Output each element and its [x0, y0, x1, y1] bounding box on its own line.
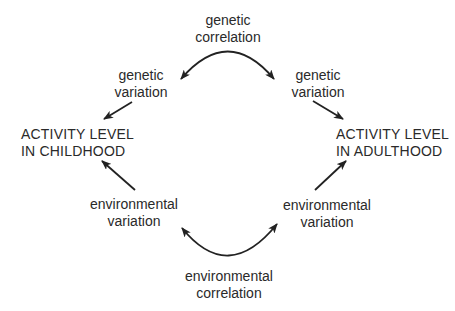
environmental-correlation-label: environmental correlation — [185, 268, 273, 302]
genetic-correlation-line2: correlation — [195, 29, 260, 46]
genetic-variation-right-arrow — [313, 101, 343, 119]
node-childhood-line2: IN CHILDHOOD — [21, 143, 134, 160]
environmental-variation-left-label: environmental variation — [90, 196, 178, 230]
genetic-variation-left-label: genetic variation — [115, 67, 168, 101]
environmental-variation-right-line2: variation — [283, 214, 371, 231]
genetic-variation-right-line2: variation — [292, 84, 345, 101]
genetic-correlation-label: genetic correlation — [195, 12, 260, 46]
environmental-variation-left-arrow — [102, 161, 135, 190]
node-activity-childhood: ACTIVITY LEVEL IN CHILDHOOD — [21, 126, 134, 160]
node-adulthood-line1: ACTIVITY LEVEL — [336, 126, 449, 143]
node-childhood-line1: ACTIVITY LEVEL — [21, 126, 134, 143]
environmental-correlation-arc — [182, 224, 277, 256]
genetic-variation-left-line1: genetic — [115, 67, 168, 84]
environmental-variation-right-line1: environmental — [283, 197, 371, 214]
node-adulthood-line2: IN ADULTHOOD — [336, 143, 449, 160]
genetic-variation-left-line2: variation — [115, 84, 168, 101]
genetic-variation-right-line1: genetic — [292, 67, 345, 84]
node-activity-adulthood: ACTIVITY LEVEL IN ADULTHOOD — [336, 126, 449, 160]
genetic-variation-right-label: genetic variation — [292, 67, 345, 101]
environmental-correlation-line2: correlation — [185, 285, 273, 302]
genetic-variation-left-arrow — [104, 102, 132, 119]
environmental-variation-left-line1: environmental — [90, 196, 178, 213]
genetic-correlation-line1: genetic — [195, 12, 260, 29]
environmental-variation-right-label: environmental variation — [283, 197, 371, 231]
environmental-variation-right-arrow — [315, 161, 346, 190]
genetic-correlation-arc — [181, 52, 274, 80]
environmental-variation-left-line2: variation — [90, 213, 178, 230]
environmental-correlation-line1: environmental — [185, 268, 273, 285]
